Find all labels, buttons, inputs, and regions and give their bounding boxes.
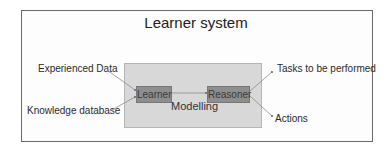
- connector-lines: [0, 0, 392, 150]
